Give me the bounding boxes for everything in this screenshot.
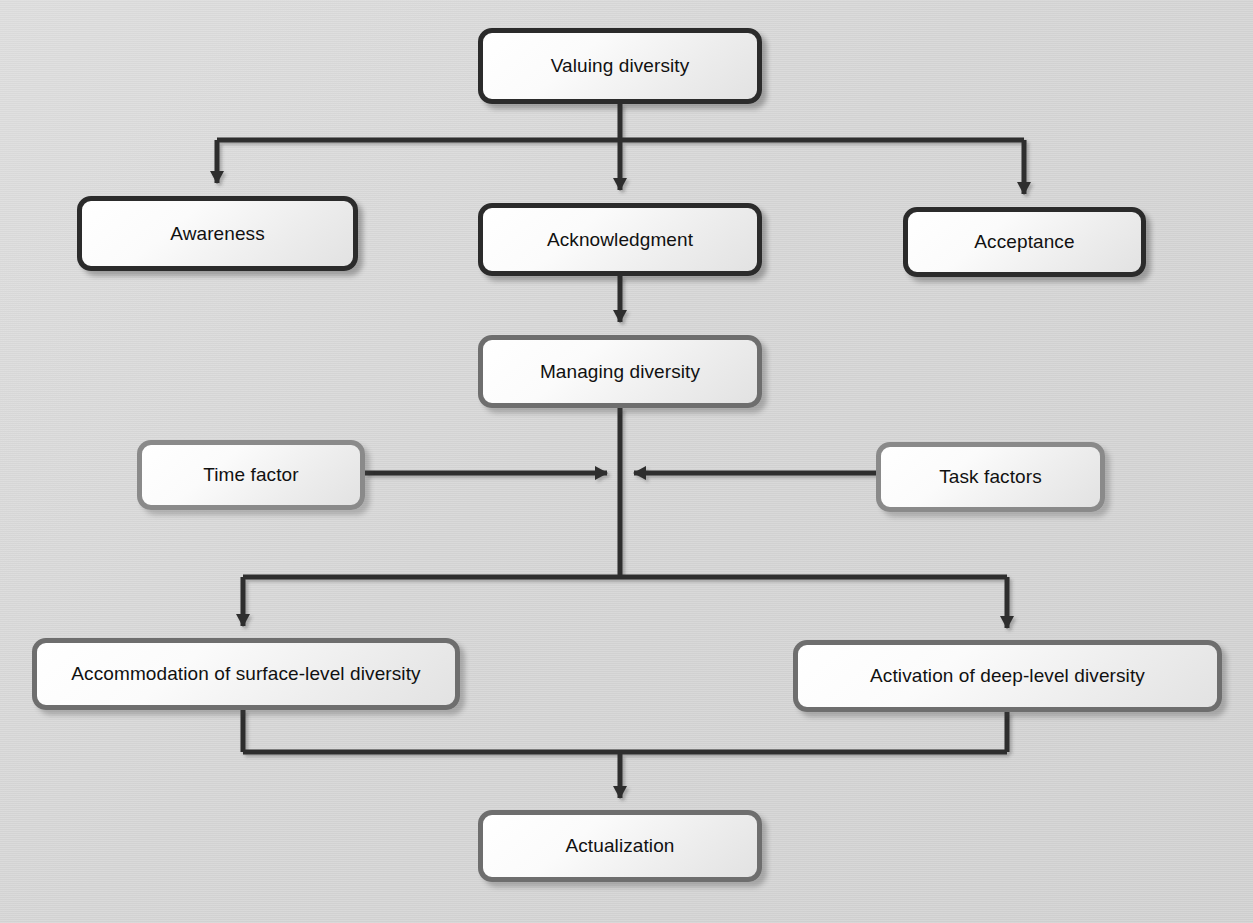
node-label-awareness: Awareness	[160, 223, 275, 245]
node-label-actualization: Actualization	[555, 835, 684, 857]
flowchart-canvas: Valuing diversity Awareness Acknowledgme…	[0, 0, 1253, 923]
node-label-managing-diversity: Managing diversity	[530, 361, 710, 383]
node-valuing-diversity[interactable]: Valuing diversity	[478, 28, 762, 104]
node-accommodation-surface-level[interactable]: Accommodation of surface-level diversity	[32, 638, 460, 710]
node-label-accommodation-surface-level: Accommodation of surface-level diversity	[61, 663, 430, 685]
node-label-activation-deep-level: Activation of deep-level diversity	[860, 665, 1155, 687]
node-label-acknowledgment: Acknowledgment	[537, 229, 703, 251]
node-label-acceptance: Acceptance	[964, 231, 1084, 253]
node-acknowledgment[interactable]: Acknowledgment	[478, 203, 762, 276]
node-activation-deep-level[interactable]: Activation of deep-level diversity	[793, 640, 1222, 712]
node-acceptance[interactable]: Acceptance	[903, 207, 1146, 277]
node-managing-diversity[interactable]: Managing diversity	[478, 335, 762, 408]
node-awareness[interactable]: Awareness	[77, 196, 358, 271]
node-time-factor[interactable]: Time factor	[137, 440, 365, 510]
node-task-factors[interactable]: Task factors	[876, 442, 1105, 512]
node-label-valuing-diversity: Valuing diversity	[541, 55, 700, 77]
node-label-task-factors: Task factors	[929, 466, 1052, 488]
node-actualization[interactable]: Actualization	[478, 810, 762, 882]
node-label-time-factor: Time factor	[193, 464, 308, 486]
